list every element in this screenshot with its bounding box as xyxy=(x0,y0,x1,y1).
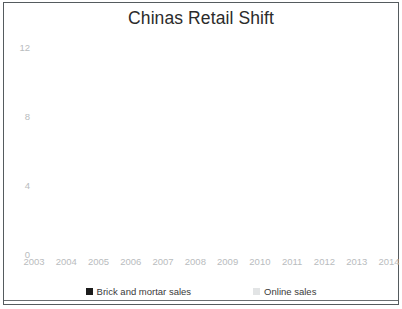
chart-title: Chinas Retail Shift xyxy=(0,8,402,29)
x-axis-tick-label: 2011 xyxy=(282,256,302,267)
x-axis-tick-label: 2009 xyxy=(217,256,238,267)
plot-area xyxy=(34,47,389,254)
square-marker xyxy=(253,288,260,295)
legend-item-online[interactable]: Online sales xyxy=(253,286,316,297)
x-axis-tick-label: 2005 xyxy=(88,256,109,267)
legend-item-brick-and-mortar[interactable]: Brick and mortar sales xyxy=(86,286,192,297)
x-axis: 2003200420052006200720082009201020112012… xyxy=(34,256,389,272)
legend-item-label: Online sales xyxy=(264,286,316,297)
chart-container: Chinas Retail Shift 04812 20032004200520… xyxy=(0,0,402,309)
y-axis-tick-label: 4 xyxy=(4,180,30,191)
y-axis-tick-label: 8 xyxy=(4,111,30,122)
x-axis-tick-label: 2004 xyxy=(56,256,77,267)
x-axis-tick-label: 2006 xyxy=(120,256,141,267)
x-axis-tick-label: 2010 xyxy=(249,256,270,267)
y-axis-tick-label: 12 xyxy=(4,42,30,53)
x-axis-tick-label: 2003 xyxy=(23,256,44,267)
x-axis-tick-label: 2013 xyxy=(346,256,367,267)
square-marker xyxy=(86,288,93,295)
x-axis-tick-label: 2008 xyxy=(185,256,206,267)
x-axis-tick-label: 2014 xyxy=(378,256,399,267)
legend-item-label: Brick and mortar sales xyxy=(97,286,192,297)
chart-legend: Brick and mortar salesOnline sales xyxy=(0,283,402,299)
x-axis-tick-label: 2012 xyxy=(314,256,335,267)
plot-background xyxy=(34,47,389,254)
legend-separator xyxy=(4,300,398,301)
y-axis: 04812 xyxy=(0,47,30,254)
x-axis-tick-label: 2007 xyxy=(153,256,174,267)
